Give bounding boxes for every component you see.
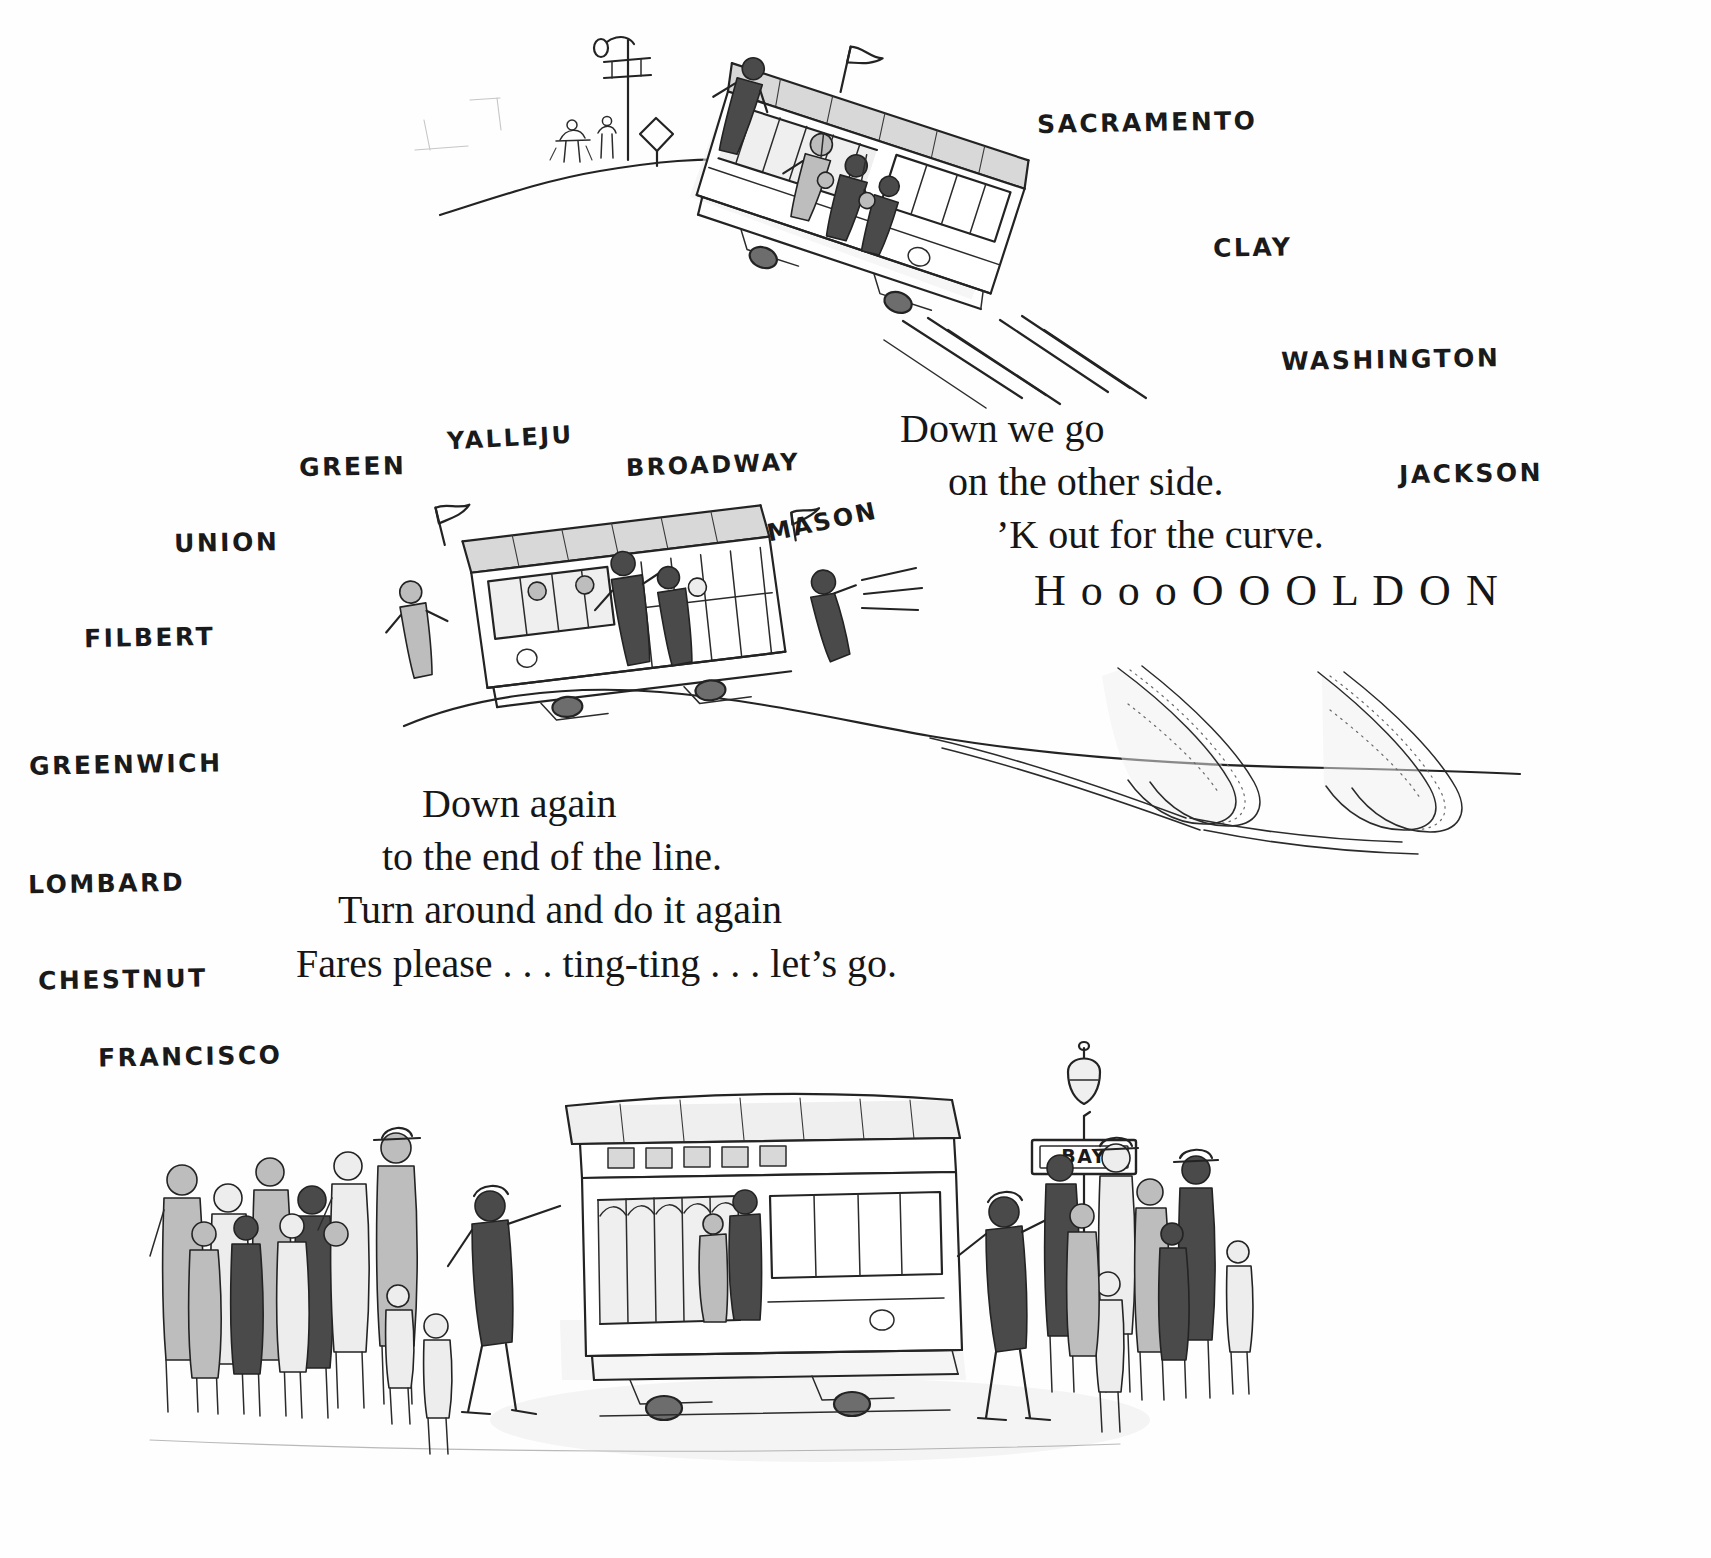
curve-car-riders (381, 532, 862, 701)
crowd-figure (211, 1184, 249, 1414)
poem-lower: Down again to the end of the line. Turn … (296, 777, 897, 990)
street-label-vallejo: YALLEJU (446, 421, 574, 456)
crowd-child (424, 1314, 452, 1454)
poem-lower-line-3: Turn around and do it again (338, 883, 897, 936)
hilltop-figures (550, 116, 616, 162)
poem-lower-line-4: Fares please . . . ting-ting . . . let’s… (296, 937, 897, 990)
crowd-figure (1045, 1155, 1079, 1392)
enclosed-section-windows (879, 151, 1013, 245)
street-label-washington: WASHINGTON (1281, 343, 1501, 376)
waiting-crowd-right (1045, 1138, 1253, 1432)
crowd-figure (253, 1158, 291, 1416)
street-lamp-hilltop (594, 37, 651, 160)
crowd-figure (150, 1165, 203, 1412)
street-label-mason: MASON (764, 497, 880, 548)
crowd-figure (1094, 1138, 1138, 1392)
waiting-crowd-left (150, 1128, 452, 1454)
poem-lower-line-2: to the end of the line. (382, 830, 897, 883)
open-air-section (717, 99, 879, 209)
curve-car-open-section (635, 547, 778, 668)
street-label-union: UNION (174, 527, 280, 558)
gripman-figure (448, 1186, 560, 1414)
curving-cable-car-tracks (930, 666, 1462, 854)
crowd-figure (295, 1186, 333, 1418)
illustration-page: BAY (0, 0, 1711, 1558)
crowd-figure (1135, 1179, 1169, 1400)
poem-upper-line-1: Down we go (900, 402, 1500, 455)
street-label-chestnut: CHESTNUT (38, 964, 208, 996)
poem-lower-line-1: Down again (422, 777, 897, 830)
street-label-greenwich: GREENWICH (29, 748, 223, 780)
street-label-sacramento: SACRAMENTO (1037, 106, 1258, 139)
crowd-figure (318, 1152, 369, 1408)
crowd-child (1227, 1241, 1253, 1394)
open-air-arches (598, 1196, 740, 1324)
diamond-street-sign (640, 118, 673, 166)
motion-speed-lines (884, 316, 1146, 408)
hill-crest-curve-line (404, 690, 1520, 774)
curve-car-windows (488, 567, 615, 639)
clerestory-vents (608, 1146, 786, 1168)
street-label-francisco: FRANCISCO (98, 1040, 283, 1072)
crowd-child (386, 1285, 414, 1424)
cable-car-standing-passengers (699, 1190, 761, 1322)
roof-flag (835, 46, 883, 102)
poem-upper-line-2: on the other side. (948, 455, 1500, 508)
cable-car-rounding-curve (376, 471, 866, 734)
poem-upper-line-4: H o o o O O O L D O N (1034, 562, 1500, 621)
crowd-figure (1174, 1150, 1218, 1398)
street-lamp-bay-stop (1068, 1042, 1100, 1350)
cable-car-descending-hill (664, 7, 1054, 344)
cabin-windows (770, 1192, 942, 1278)
cable-car-passengers (681, 49, 929, 257)
street-label-clay: CLAY (1213, 232, 1293, 262)
poem-upper-line-3: ’K out for the curve. (996, 508, 1500, 561)
crowd-child (1096, 1272, 1124, 1432)
conductor-figure (958, 1192, 1050, 1420)
poem-upper: Down we go on the other side. ’K out for… (900, 402, 1500, 620)
street-label-green: GREEN (299, 451, 407, 482)
top-scene (0, 0, 1711, 470)
hilltop-horizon-line (440, 159, 742, 215)
street-label-broadway: BROADWAY (626, 448, 801, 482)
cable-car-at-terminus (560, 1094, 966, 1420)
crowd-figure (377, 1133, 417, 1404)
street-label-lombard: LOMBARD (28, 868, 186, 900)
bottom-scene: BAY (0, 1020, 1711, 1558)
pencil-ghost-marks (415, 98, 501, 150)
street-label-filbert: FILBERT (84, 622, 216, 653)
curve-car-flags (435, 473, 821, 571)
bay-sign-label: BAY (1061, 1145, 1107, 1167)
bay-stop-sign: BAY (1032, 1140, 1136, 1174)
